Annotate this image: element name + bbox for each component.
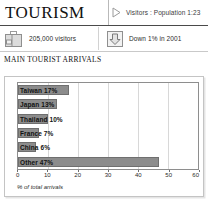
section-title: MAIN TOURIST ARRIVALS (0, 52, 208, 66)
chart-bar-label: Thailand 10% (20, 115, 63, 122)
chart-x-axis-label: % of total arrivals (17, 184, 63, 190)
page-header: TOURISM Visitors : Population 1:23 (0, 0, 208, 26)
chart-bar-label: Japan 13% (20, 101, 55, 108)
chart-axis-tick-label: 60 (192, 172, 199, 178)
chart-axis-tick-label: 0 (16, 172, 19, 178)
stats-row: 205,000 visitors Down 1% in 2001 (0, 26, 208, 52)
chart-bars: Taiwan 17%Japan 13%Thailand 10%France 7%… (18, 83, 198, 169)
chart-bar-label: Other 47% (20, 158, 53, 165)
down-arrow-icon (106, 30, 124, 48)
stat-trend-label: Down 1% in 2001 (129, 35, 181, 42)
chart-x-axis: 0102030405060 (17, 170, 199, 182)
header-caption-group: Visitors : Population 1:23 (112, 0, 208, 25)
chart-axis-tick-label: 20 (74, 172, 81, 178)
chart-bar-row: Other 47% (18, 155, 198, 169)
chart-bar-label: Taiwan 17% (20, 87, 57, 94)
stats-divider (98, 27, 99, 50)
stat-visitors: 205,000 visitors (0, 26, 104, 51)
chart-axis-tick-label: 30 (105, 172, 112, 178)
page-title: TOURISM (0, 3, 85, 23)
triangle-right-icon (112, 7, 121, 18)
chart-bar-row: France 7% (18, 126, 198, 140)
tourist-arrivals-chart: Taiwan 17%Japan 13%Thailand 10%France 7%… (4, 76, 204, 197)
stat-visitors-label: 205,000 visitors (29, 35, 76, 42)
chart-bar-label: France 7% (20, 130, 53, 137)
chart-axis-tick-label: 40 (135, 172, 142, 178)
chart-bar-row: Taiwan 17% (18, 83, 198, 97)
chart-bar-label: China 6% (20, 144, 50, 151)
visitors-population-ratio: Visitors : Population 1:23 (126, 9, 200, 16)
chart-axis-tick-label: 10 (44, 172, 51, 178)
header-divider (108, 0, 109, 25)
stat-trend: Down 1% in 2001 (104, 26, 181, 51)
chart-plot-area: Taiwan 17%Japan 13%Thailand 10%France 7%… (17, 82, 199, 170)
suitcase-icon (4, 30, 24, 48)
chart-bar-row: China 6% (18, 140, 198, 154)
chart-bar-row: Thailand 10% (18, 112, 198, 126)
chart-bar-row: Japan 13% (18, 97, 198, 111)
chart-axis-tick-label: 50 (165, 172, 172, 178)
